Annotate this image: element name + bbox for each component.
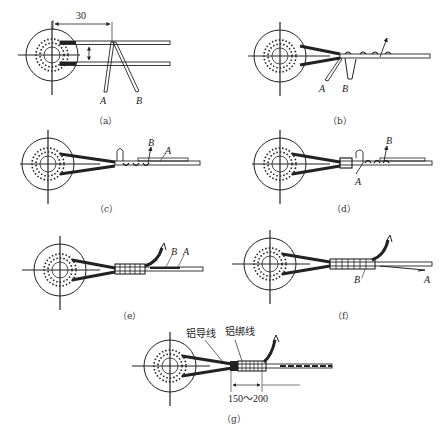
insulator-icon [244,230,296,304]
label-B: B [148,137,154,148]
insulator-icon [254,22,306,96]
panel-g: 铝导线 铝绑线 150～200 （g） [132,325,332,424]
label-A: A [164,145,172,156]
label-B: B [354,274,360,285]
label-A: A [423,274,431,285]
panel-a: 30 A B （a） [18,10,170,126]
insulator-icon [26,21,78,95]
label-B: B [342,83,348,94]
panel-b: A B （b） [248,22,430,126]
label-B: B [136,95,142,106]
label-A: A [182,246,190,257]
label-A: A [354,176,362,187]
caption-c: （c） [95,204,118,214]
panel-e: B A （e） [22,236,203,321]
insulator-icon [254,130,306,204]
label-aluminum-binding-wire: 铝绑线 [225,325,255,337]
insulator-icon [22,130,74,204]
label-B: B [386,135,392,146]
caption-e: （e） [118,311,141,321]
label-B: B [171,246,177,257]
caption-b: （b） [328,116,352,126]
insulator-binding-diagram: 30 A B （a） A B （b） B A （c） [0,0,443,431]
caption-f: （f） [333,311,354,321]
dimension-150-200: 150～200 [228,393,268,404]
dimension-30: 30 [76,10,86,21]
insulator-icon [144,332,196,406]
caption-d: （d） [332,204,356,214]
insulator-icon [34,236,86,310]
panel-f: B A （f） [232,230,432,321]
caption-g: （g） [222,414,246,424]
panel-d: B A （d） [252,130,432,214]
label-aluminum-conductor: 铝导线 [186,327,216,339]
label-A: A [318,83,326,94]
caption-a: （a） [94,116,117,126]
panel-c: B A （c） [20,130,200,214]
label-A: A [99,95,107,106]
